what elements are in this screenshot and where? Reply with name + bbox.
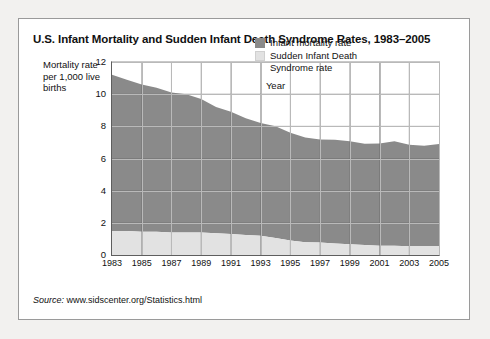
y-tick-label: 8 bbox=[80, 120, 106, 131]
gridline-vertical bbox=[142, 62, 143, 255]
gridline-vertical bbox=[290, 62, 291, 255]
y-tick-label: 12 bbox=[80, 56, 106, 67]
chart-card: U.S. Infant Mortality and Sudden Infant … bbox=[18, 18, 470, 320]
gridline-vertical bbox=[380, 62, 381, 255]
source-url: www.sidscenter.org/Statistics.html bbox=[67, 295, 203, 305]
legend-swatch-sids bbox=[255, 51, 265, 61]
gridline-vertical bbox=[320, 62, 321, 255]
legend-item-infant-mortality: Infant mortality rate bbox=[255, 37, 374, 49]
gridline-vertical bbox=[201, 62, 202, 255]
y-tick-label: 6 bbox=[80, 153, 106, 164]
legend-swatch-infant-mortality bbox=[255, 38, 265, 48]
gridline-horizontal bbox=[112, 191, 439, 192]
gridline-horizontal bbox=[112, 223, 439, 224]
y-tick-label: 4 bbox=[80, 185, 106, 196]
legend-label-sids: Sudden Infant Death Syndrome rate bbox=[270, 50, 374, 74]
plot-area: 024681012 198319851987198919911993199519… bbox=[111, 61, 440, 256]
legend-item-sids: Sudden Infant Death Syndrome rate bbox=[255, 50, 374, 74]
y-tick-label: 10 bbox=[80, 88, 106, 99]
area-infant-mortality bbox=[112, 75, 439, 246]
chart-legend: Infant mortality rate Sudden Infant Deat… bbox=[255, 37, 374, 75]
x-tick-label: 2005 bbox=[419, 258, 459, 268]
x-axis-title: Year bbox=[112, 80, 439, 91]
source-prefix: Source: bbox=[33, 295, 64, 305]
gridline-horizontal bbox=[112, 159, 439, 160]
gridline-vertical bbox=[171, 62, 172, 255]
source-note: Source: www.sidscenter.org/Statistics.ht… bbox=[33, 295, 202, 305]
gridline-vertical bbox=[439, 62, 440, 255]
legend-label-infant-mortality: Infant mortality rate bbox=[270, 37, 351, 49]
gridline-horizontal bbox=[112, 94, 439, 95]
gridline-vertical bbox=[409, 62, 410, 255]
gridline-vertical bbox=[261, 62, 262, 255]
y-tick-label: 2 bbox=[80, 217, 106, 228]
gridline-vertical bbox=[231, 62, 232, 255]
gridline-vertical bbox=[350, 62, 351, 255]
gridline-horizontal bbox=[112, 126, 439, 127]
